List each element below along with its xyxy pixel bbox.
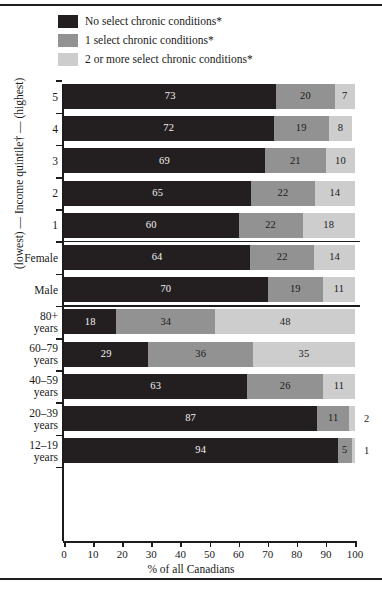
bar-segment-value: 48 <box>280 317 291 328</box>
y-axis-tick <box>56 338 62 340</box>
category-label: 80+years <box>0 310 58 334</box>
bar-segment-value: 10 <box>335 156 346 167</box>
bar-segment-value: 19 <box>290 284 301 295</box>
y-axis-tick <box>56 274 62 276</box>
bar-outside-value: 2 <box>364 413 369 424</box>
bar-segment-value: 18 <box>85 317 96 328</box>
bar-row: 73207 <box>64 84 355 109</box>
legend-item: 2 or more select chronic conditions* <box>58 50 358 69</box>
legend-item: 1 select chronic conditions* <box>58 31 358 50</box>
bar-row: 9451 <box>64 438 355 463</box>
bar-segment-value: 65 <box>152 188 163 199</box>
category-label: 2 <box>0 187 58 199</box>
bar-row: 642214 <box>64 245 355 270</box>
bar-segment: 8 <box>329 116 352 141</box>
x-axis-tick <box>93 541 95 547</box>
bar-segment: 70 <box>64 277 268 302</box>
bar-segment: 65 <box>64 181 251 206</box>
category-label-line1: 3 <box>0 155 58 167</box>
y-axis-tick <box>56 80 62 82</box>
bar-segment: 11 <box>317 406 349 431</box>
category-label: 60–79years <box>0 342 58 366</box>
category-label-line1: 60–79 <box>0 342 58 354</box>
bar-segment: 36 <box>148 342 253 367</box>
bar-outside-value: 1 <box>364 445 369 456</box>
bar-segment: 22 <box>251 181 314 206</box>
bar-segment-value: 72 <box>163 123 174 134</box>
bar-segment: 94 <box>64 438 338 463</box>
plot-area: 7320772198692110652214602218642214701911… <box>64 84 355 541</box>
y-axis-tick <box>56 370 62 372</box>
bar-segment-value: 73 <box>165 91 176 102</box>
category-label-line2: years <box>0 419 58 431</box>
legend-swatch-none <box>58 15 78 28</box>
top-rule <box>0 4 382 6</box>
category-label-line1: Female <box>0 252 58 264</box>
y-axis-tick <box>56 306 62 308</box>
bar-segment-value: 35 <box>299 349 310 360</box>
bar-segment: 14 <box>314 245 355 270</box>
y-axis-tick <box>56 209 62 211</box>
x-axis-tick <box>326 541 328 547</box>
bar-segment: 72 <box>64 116 274 141</box>
bar-segment-value: 11 <box>334 381 345 392</box>
bar-segment-value: 14 <box>329 252 340 263</box>
bar-segment-value: 26 <box>280 381 291 392</box>
legend-item-label: 1 select chronic conditions* <box>85 34 214 47</box>
bar-segment-value: 70 <box>160 284 171 295</box>
bar-segment: 21 <box>265 148 326 173</box>
bar-row: 72198 <box>64 116 355 141</box>
bottom-rule <box>0 578 382 580</box>
bar-segment: 60 <box>64 213 239 238</box>
bar-segment: 22 <box>239 213 303 238</box>
category-label-line2: years <box>0 322 58 334</box>
bar-segment-value: 14 <box>329 188 340 199</box>
category-label-line1: 12–19 <box>0 439 58 451</box>
bar-segment-value: 22 <box>278 188 289 199</box>
category-label: 1 <box>0 219 58 231</box>
x-axis-tick-label: 30 <box>146 548 157 560</box>
category-label-line2: years <box>0 354 58 366</box>
legend-swatch-two-plus <box>58 53 78 66</box>
x-axis-tick-label: 80 <box>291 548 302 560</box>
legend-item-label: 2 or more select chronic conditions* <box>85 53 253 66</box>
bar-segment: 18 <box>64 309 116 334</box>
bar-segment: 11 <box>323 277 355 302</box>
category-label-line2: years <box>0 386 58 398</box>
bar-segment: 7 <box>335 84 355 109</box>
category-label-line1: 4 <box>0 123 58 135</box>
bar-segment-value: 34 <box>160 317 171 328</box>
y-axis-tick <box>56 435 62 437</box>
category-label-line1: 80+ <box>0 310 58 322</box>
bar-segment-value: 87 <box>185 413 196 424</box>
bar-segment-value: 94 <box>195 445 206 456</box>
bar-segment: 11 <box>323 374 355 399</box>
x-axis-tick-label: 100 <box>347 548 364 560</box>
category-label: 40–59years <box>0 374 58 398</box>
bar-row: 293635 <box>64 342 355 367</box>
x-axis-tick-label: 40 <box>175 548 186 560</box>
y-axis-tick <box>56 113 62 115</box>
x-axis-tick-label: 70 <box>262 548 273 560</box>
group-separator <box>62 305 360 307</box>
bar-segment: 34 <box>116 309 215 334</box>
bar-segment-value: 36 <box>195 349 206 360</box>
bar-segment: 73 <box>64 84 276 109</box>
bar-segment: 22 <box>250 245 314 270</box>
bar-segment-value: 11 <box>334 284 345 295</box>
y-axis-tick <box>56 177 62 179</box>
bar-segment: 19 <box>274 116 329 141</box>
category-label: 4 <box>0 123 58 135</box>
bar-segment: 69 <box>64 148 265 173</box>
bar-segment-value: 18 <box>323 220 334 231</box>
bar-segment-value: 64 <box>152 252 163 263</box>
y-axis-tick <box>56 241 62 243</box>
bar-segment-value: 22 <box>277 252 288 263</box>
bar-segment: 1 <box>352 438 355 463</box>
legend-swatch-one <box>58 34 78 47</box>
bar-segment: 29 <box>64 342 148 367</box>
x-axis-tick <box>268 541 270 547</box>
bar-segment: 35 <box>253 342 355 367</box>
bar-segment-value: 11 <box>328 413 339 424</box>
category-label-line1: 2 <box>0 187 58 199</box>
